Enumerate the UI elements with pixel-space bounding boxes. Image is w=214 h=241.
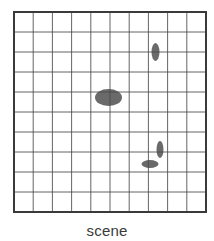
grid-lines <box>14 12 206 212</box>
scene-diagram <box>0 0 214 241</box>
bottom-right-horizontal-blob <box>142 160 159 168</box>
scene-caption: scene <box>0 222 214 239</box>
bottom-right-vertical-blob <box>157 141 164 158</box>
